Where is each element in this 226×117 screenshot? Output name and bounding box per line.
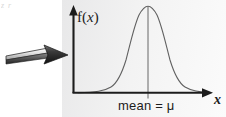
x-axis-label: x bbox=[214, 92, 221, 107]
mean-caption: mean = μ bbox=[118, 98, 174, 113]
figure-canvas: z r bbox=[0, 0, 226, 117]
y-axis-label-prefix: f( bbox=[77, 9, 87, 25]
distribution-chart bbox=[0, 0, 226, 117]
x-axis-arrowhead bbox=[202, 88, 213, 97]
y-axis-label-variable: x bbox=[87, 9, 94, 25]
y-axis-label: f(x) bbox=[77, 9, 99, 25]
y-axis-label-suffix: ) bbox=[94, 9, 99, 25]
